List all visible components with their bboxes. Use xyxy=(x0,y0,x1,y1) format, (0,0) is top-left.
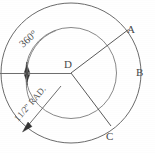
radius-annotation-group: 1 1/2 " RAD. xyxy=(12,84,48,123)
radius-line-da xyxy=(71,30,129,74)
label-point-c: C xyxy=(106,130,113,142)
label-point-b: B xyxy=(136,66,143,78)
circle-diagram-svg: A B C D 360° 1 1/2 " RAD. xyxy=(0,0,155,153)
technical-drawing-canvas: A B C D 360° 1 1/2 " RAD. xyxy=(0,0,155,153)
label-center-d: D xyxy=(64,58,72,70)
label-point-a: A xyxy=(127,23,135,35)
